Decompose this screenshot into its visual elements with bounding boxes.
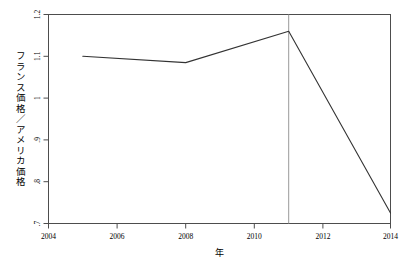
y-tick-label: 1.1 [33,51,42,61]
x-tick-label: 2008 [178,232,193,241]
y-axis-title: フランス価格／アメリカ価格 [15,51,25,188]
y-tick-label: .9 [33,137,42,143]
y-tick-label: 1.2 [33,10,42,20]
x-tick-label: 2006 [110,232,125,241]
x-tick-label: 2012 [315,232,330,241]
chart-container: .7 .8 .9 1 1.1 1.2 2004 2006 2008 2010 2… [0,0,410,268]
x-tick-label: 2010 [247,232,262,241]
x-axis-title: 年 [215,247,224,258]
y-tick-label: .8 [33,179,42,185]
y-tick-label: .7 [33,220,42,226]
x-tick-label: 2004 [41,232,56,241]
line-chart-plot: .7 .8 .9 1 1.1 1.2 2004 2006 2008 2010 2… [0,0,410,268]
chart-background [0,0,410,268]
y-tick-label: 1 [33,96,42,100]
x-tick-label: 2014 [383,232,398,241]
y-axis-title-wrapper: フランス価格／アメリカ価格 [12,14,28,224]
